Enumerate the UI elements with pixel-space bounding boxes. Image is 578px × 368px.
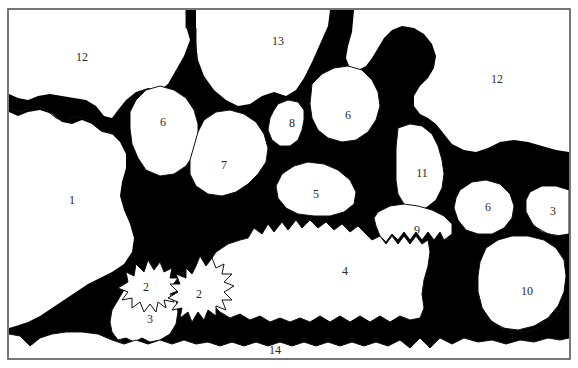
label-12-right: 12 xyxy=(491,72,503,86)
label-13: 13 xyxy=(272,34,284,48)
clast-map-svg: 12 13 12 6 8 6 7 11 1 5 6 3 9 4 2 2 10 3… xyxy=(0,0,578,368)
label-2-right: 2 xyxy=(196,287,202,301)
label-9: 9 xyxy=(414,223,420,237)
label-6-upper-left: 6 xyxy=(160,115,166,129)
label-2-left: 2 xyxy=(143,280,149,294)
label-11: 11 xyxy=(416,166,428,180)
label-6-right: 6 xyxy=(485,200,491,214)
label-5: 5 xyxy=(313,187,319,201)
label-10: 10 xyxy=(521,284,533,298)
clast-6-upper-right xyxy=(310,66,380,142)
label-4: 4 xyxy=(342,264,348,278)
label-7: 7 xyxy=(221,158,227,172)
label-12-left: 12 xyxy=(76,50,88,64)
label-6-upper-right: 6 xyxy=(345,108,351,122)
label-3-left: 3 xyxy=(147,312,153,326)
label-8: 8 xyxy=(289,116,295,130)
label-14: 14 xyxy=(269,343,281,357)
label-1: 1 xyxy=(69,193,75,207)
label-3-right: 3 xyxy=(550,204,556,218)
figure-root: 12 13 12 6 8 6 7 11 1 5 6 3 9 4 2 2 10 3… xyxy=(0,0,578,368)
